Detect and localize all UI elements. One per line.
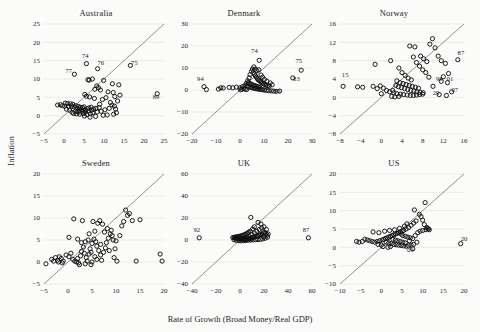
x-tick-label: 20 bbox=[161, 287, 169, 295]
y-tick-label: 12 bbox=[329, 39, 337, 47]
x-tick-label: 20 bbox=[141, 137, 149, 145]
data-point bbox=[408, 44, 412, 48]
data-point bbox=[110, 82, 114, 86]
data-point bbox=[414, 60, 418, 64]
y-tick-label: 16 bbox=[329, 20, 337, 28]
point-annotation: 77 bbox=[66, 67, 73, 74]
point-annotation: 74 bbox=[82, 52, 89, 59]
panel-norway: Norway −8−40481216−8−4048121615879801200… bbox=[318, 8, 470, 150]
data-point bbox=[91, 219, 95, 223]
data-point bbox=[105, 226, 109, 230]
data-point bbox=[341, 84, 345, 88]
plot-area-sweden: −505101520−505101520 bbox=[22, 158, 170, 300]
x-tick-label: −10 bbox=[335, 287, 346, 295]
data-point bbox=[421, 218, 425, 222]
y-tick-label: 40 bbox=[181, 192, 189, 200]
data-point bbox=[100, 258, 104, 262]
point-annotation: 83 bbox=[293, 75, 300, 82]
y-tick-label: 8 bbox=[333, 57, 337, 65]
y-tick-label: −10 bbox=[177, 108, 188, 116]
data-point bbox=[306, 236, 310, 240]
data-point bbox=[81, 245, 85, 249]
x-tick-label: −10 bbox=[211, 137, 222, 145]
x-tick-label: −5 bbox=[357, 287, 365, 295]
data-point bbox=[84, 62, 88, 66]
data-point bbox=[94, 114, 98, 118]
data-point bbox=[93, 229, 97, 233]
data-point bbox=[354, 239, 358, 243]
data-point bbox=[130, 219, 134, 223]
data-point bbox=[160, 259, 164, 263]
y-tick-label: 10 bbox=[33, 75, 41, 83]
y-tick-label: 15 bbox=[33, 57, 41, 65]
x-tick-label: 10 bbox=[101, 137, 109, 145]
data-point bbox=[425, 59, 429, 63]
data-point bbox=[412, 208, 416, 212]
data-point bbox=[103, 246, 107, 250]
data-point bbox=[415, 240, 419, 244]
data-point bbox=[459, 242, 463, 246]
panel-denmark: Denmark −20−100102030−20−100102030747583… bbox=[170, 8, 318, 150]
y-tick-label: 0 bbox=[185, 236, 189, 244]
x-tick-label: 4 bbox=[400, 137, 404, 145]
data-point bbox=[444, 93, 448, 97]
point-annotation: 89 bbox=[153, 93, 160, 100]
data-point bbox=[158, 252, 162, 256]
data-point bbox=[397, 66, 401, 70]
x-tick-label: 10 bbox=[113, 287, 121, 295]
data-point bbox=[371, 84, 375, 88]
y-tick-label: 10 bbox=[329, 207, 337, 215]
plot-area-norway: −8−40481216−8−40481216158798012007 bbox=[318, 8, 470, 150]
data-point bbox=[89, 263, 93, 267]
data-point bbox=[355, 85, 359, 89]
x-tick-label: 0 bbox=[380, 287, 384, 295]
data-point bbox=[106, 90, 110, 94]
data-point bbox=[428, 42, 432, 46]
data-point bbox=[104, 241, 108, 245]
data-point bbox=[72, 217, 76, 221]
x-tick-label: 0 bbox=[62, 137, 66, 145]
x-tick-label: 15 bbox=[137, 287, 145, 295]
data-point bbox=[134, 259, 138, 263]
data-point bbox=[72, 72, 76, 76]
plot-area-australia: −50510152025−505101520257477767589 bbox=[22, 8, 170, 150]
y-tick-label: −5 bbox=[329, 262, 337, 270]
data-point bbox=[104, 96, 108, 100]
data-point bbox=[120, 224, 124, 228]
x-tick-label: 20 bbox=[261, 287, 269, 295]
panel-uk: UK −40−200204060−40−2002040609287 bbox=[170, 158, 318, 300]
data-point bbox=[100, 222, 104, 226]
y-tick-label: 60 bbox=[181, 170, 189, 178]
y-tick-label: 5 bbox=[37, 94, 41, 102]
data-point bbox=[413, 45, 417, 49]
y-tick-label: 20 bbox=[33, 39, 41, 47]
data-point bbox=[383, 229, 387, 233]
x-tick-label: 20 bbox=[461, 287, 469, 295]
panel-sweden: Sweden −505101520−505101520 bbox=[22, 158, 170, 300]
data-point bbox=[78, 254, 82, 258]
x-tick-label: 40 bbox=[285, 287, 293, 295]
data-point bbox=[377, 231, 381, 235]
point-annotation: 20 bbox=[433, 89, 440, 96]
point-annotation: 20 bbox=[461, 235, 468, 242]
x-tick-label: 10 bbox=[261, 137, 269, 145]
x-tick-label: 0 bbox=[380, 137, 384, 145]
y-tick-label: 25 bbox=[33, 20, 41, 28]
data-point bbox=[197, 236, 201, 240]
data-point bbox=[118, 234, 122, 238]
data-point bbox=[299, 68, 303, 72]
y-tick-label: 0 bbox=[37, 112, 41, 120]
x-tick-label: 30 bbox=[309, 137, 317, 145]
data-point bbox=[112, 256, 116, 260]
x-tick-label: 15 bbox=[121, 137, 129, 145]
x-tick-label: −8 bbox=[336, 137, 344, 145]
data-point bbox=[124, 208, 128, 212]
data-point bbox=[430, 37, 434, 41]
y-tick-label: 0 bbox=[37, 258, 41, 266]
point-annotation: 75 bbox=[296, 57, 303, 64]
plot-area-uk: −40−200204060−40−2002040609287 bbox=[170, 158, 318, 300]
x-tick-label: −4 bbox=[357, 137, 365, 145]
point-annotation: 01 bbox=[447, 75, 454, 82]
scatter-matrix-figure: Australia −50510152025−50510152025747776… bbox=[0, 0, 480, 332]
data-point bbox=[436, 54, 440, 58]
